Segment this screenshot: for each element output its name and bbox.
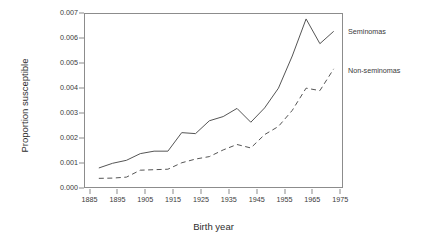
x-tick-mark <box>145 189 146 194</box>
y-axis-title: Proportion susceptible <box>19 46 30 166</box>
y-tick-label: 0.002 <box>0 134 78 141</box>
x-tick-label: 1975 <box>332 196 348 203</box>
y-tick-label: 0.005 <box>0 59 78 66</box>
x-tick-mark <box>340 189 341 194</box>
x-tick-mark <box>173 189 174 194</box>
x-tick-label: 1955 <box>277 196 293 203</box>
y-tick-label: 0.004 <box>0 84 78 91</box>
x-tick-mark <box>228 189 229 194</box>
plot-area <box>84 13 343 188</box>
y-tick-label: 0.006 <box>0 34 78 41</box>
y-tick-label: 0.001 <box>0 159 78 166</box>
x-tick-label: 1885 <box>82 196 98 203</box>
series-label-seminomas: Seminomas <box>348 28 386 35</box>
x-tick-mark <box>117 189 118 194</box>
series-canvas <box>85 14 342 187</box>
x-tick-label: 1945 <box>249 196 265 203</box>
series-line-seminomas <box>99 19 334 168</box>
y-tick-label: 0.007 <box>0 9 78 16</box>
x-tick-label: 1925 <box>193 196 209 203</box>
x-tick-mark <box>200 189 201 194</box>
series-line-non-seminomas <box>99 69 334 178</box>
x-axis-title: Birth year <box>84 221 343 232</box>
y-tick-label: 0.003 <box>0 109 78 116</box>
x-tick-label: 1915 <box>165 196 181 203</box>
x-tick-label: 1935 <box>221 196 237 203</box>
x-tick-mark <box>89 189 90 194</box>
y-tick-label: 0.000 <box>0 184 78 191</box>
chart-figure: 0.0000.0010.0020.0030.0040.0050.0060.007… <box>0 0 422 247</box>
x-tick-mark <box>312 189 313 194</box>
x-tick-label: 1895 <box>109 196 125 203</box>
x-tick-mark <box>284 189 285 194</box>
x-tick-label: 1905 <box>137 196 153 203</box>
series-label-non-seminomas: Non-seminomas <box>348 67 400 74</box>
x-tick-mark <box>256 189 257 194</box>
x-tick-label: 1965 <box>304 196 320 203</box>
